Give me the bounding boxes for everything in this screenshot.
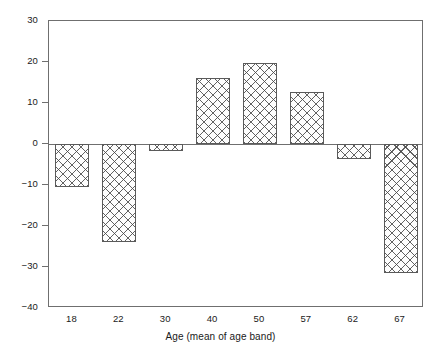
y-axis-tick-label: 10 [27, 97, 38, 107]
plot-inner [49, 21, 422, 306]
y-axis-tick-label: 30 [27, 15, 38, 25]
y-axis-tick-label: −30 [22, 261, 38, 271]
bar [290, 92, 324, 144]
bar-chart: 3020100−10−20−30−40 1822304050576267 Age… [0, 0, 441, 354]
y-axis-tick-label: 20 [27, 56, 38, 66]
x-axis-tick-label: 57 [286, 313, 326, 324]
x-axis-tick-label: 40 [192, 313, 232, 324]
x-axis-tick-label: 18 [51, 313, 91, 324]
bar [149, 144, 183, 151]
x-axis-tick-label: 22 [98, 313, 138, 324]
x-axis-tick-label: 62 [333, 313, 373, 324]
x-axis-tick-label: 67 [380, 313, 420, 324]
y-axis-tick-label: −10 [22, 179, 38, 189]
x-axis-tick-label: 50 [239, 313, 279, 324]
bar [196, 78, 230, 144]
y-axis-tick-label: −40 [22, 302, 38, 312]
y-axis-tick-label: 0 [33, 138, 38, 148]
bar [337, 144, 371, 159]
bar [102, 144, 136, 242]
bar [243, 63, 277, 144]
plot-area [48, 20, 423, 307]
bar [55, 144, 89, 187]
x-axis-tick-label: 30 [145, 313, 185, 324]
x-axis-title: Age (mean of age band) [0, 331, 441, 343]
y-axis-tick-label: −20 [22, 220, 38, 230]
bar [384, 144, 418, 273]
